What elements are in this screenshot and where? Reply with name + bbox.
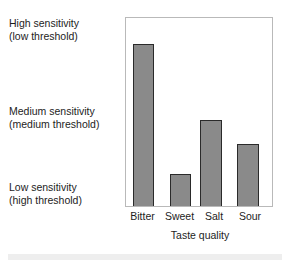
x-axis-tick-labels: Bitter Sweet Salt Sour — [125, 209, 275, 225]
y-axis-label-low-line1: Low sensitivity — [9, 181, 121, 194]
y-axis-label-high-line1: High sensitivity — [9, 17, 121, 30]
y-axis-label-low-line2: (high threshold) — [9, 194, 121, 207]
bar-sour[interactable] — [237, 144, 259, 206]
y-axis-label-medium-sensitivity: Medium sensitivity (medium threshold) — [9, 105, 121, 131]
bar-salt[interactable] — [200, 120, 222, 206]
taste-sensitivity-bar-chart: High sensitivity (low threshold) Medium … — [0, 0, 290, 265]
y-axis-label-high-sensitivity: High sensitivity (low threshold) — [9, 17, 121, 43]
plot-frame — [125, 17, 273, 207]
y-axis-label-medium-line1: Medium sensitivity — [9, 105, 121, 118]
y-axis-label-medium-line2: (medium threshold) — [9, 118, 121, 131]
y-axis-label-low-sensitivity: Low sensitivity (high threshold) — [9, 181, 121, 207]
x-axis-tick-sour: Sour — [229, 209, 271, 223]
bottom-band — [8, 254, 282, 260]
bar-sweet[interactable] — [170, 174, 191, 206]
plot-area — [126, 18, 272, 206]
y-axis-label-high-line2: (low threshold) — [9, 30, 121, 43]
x-axis-title: Taste quality — [125, 228, 275, 242]
bar-bitter[interactable] — [133, 44, 154, 206]
